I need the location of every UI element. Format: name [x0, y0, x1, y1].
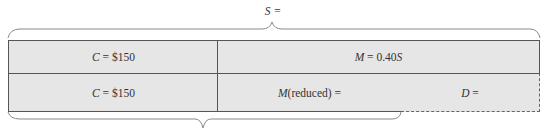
row1-cost-cell: C = $150 [8, 40, 218, 74]
var-c: C [92, 87, 100, 99]
var-m: M [278, 87, 288, 99]
top-brace-label: S = [258, 5, 288, 17]
selling-price-label: S = [265, 5, 281, 17]
top-brace [8, 22, 540, 38]
var-c: C [92, 51, 100, 63]
row2-reduced-markup-cell: M(reduced) = [217, 73, 402, 112]
cost-value: = $150 [100, 51, 135, 63]
row2-discount-cell: D = [401, 73, 540, 112]
row1-markup-cell: M = 0.40S [217, 40, 540, 74]
var-s: S [397, 51, 403, 63]
markup-value: = 0.40 [364, 51, 396, 63]
bottom-brace [8, 112, 401, 128]
row2-cost-cell: C = $150 [8, 73, 218, 112]
discount-label: = [469, 87, 478, 99]
var-m: M [355, 51, 365, 63]
reduced-markup-label: (reduced) = [288, 87, 341, 99]
cost-value: = $150 [100, 87, 135, 99]
